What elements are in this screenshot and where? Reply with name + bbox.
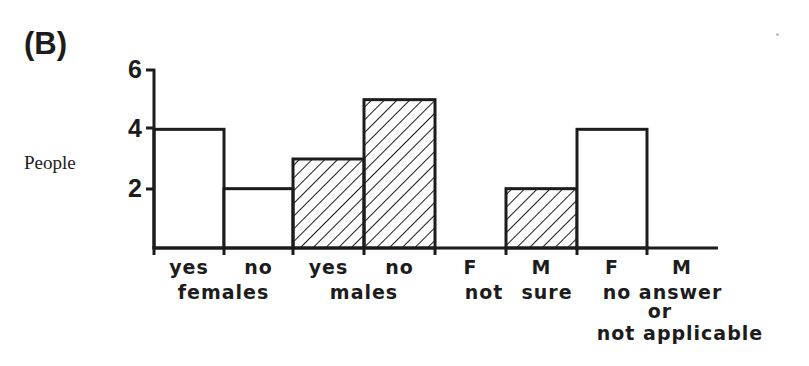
group-label-females: females [154, 281, 293, 303]
scan-speck [776, 33, 779, 36]
bar-3 [364, 100, 435, 248]
bars-group [154, 100, 647, 248]
group-label-not-applicable: not applicable [580, 322, 780, 344]
bar-2 [293, 159, 364, 248]
group-label-or: or [620, 300, 700, 322]
x-label-yes-males: yes [293, 256, 364, 278]
bar-chart: (B) People 6 4 2 yes no yes no F M F M f… [0, 0, 809, 366]
bar-1 [224, 189, 293, 248]
bar-6 [577, 129, 647, 248]
group-label-sure: sure [512, 281, 582, 303]
bar-0 [154, 129, 224, 248]
x-label-f-notsure: F [435, 256, 506, 278]
x-label-no-females: no [224, 256, 293, 278]
group-label-not: not [454, 281, 514, 303]
x-label-no-males: no [364, 256, 435, 278]
x-label-yes-females: yes [154, 256, 224, 278]
x-label-f-noanswer: F [577, 256, 647, 278]
group-label-males: males [293, 281, 435, 303]
x-label-m-notsure: M [506, 256, 577, 278]
x-label-m-noanswer: M [647, 256, 717, 278]
bar-5 [506, 189, 577, 248]
